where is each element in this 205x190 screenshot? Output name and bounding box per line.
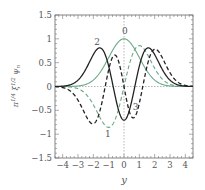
x-tick-label: 0	[121, 160, 126, 170]
curve-label-1: 1	[105, 129, 111, 139]
y-tick-label: 1	[47, 34, 52, 44]
y-tick-label: 0.5	[38, 58, 52, 68]
curve-labels: 0123	[94, 26, 138, 138]
y-tick-label: 0	[47, 82, 52, 92]
curve-label-0: 0	[122, 26, 128, 36]
y-tick-label: −1	[39, 129, 52, 139]
y-tick-label: 1.5	[38, 10, 52, 20]
x-tick-label: 2	[152, 160, 157, 170]
y-axis-label: π1/4 ξ1/2 ψn	[10, 64, 21, 108]
x-axis-label: y	[120, 174, 127, 185]
x-tick-label: 3	[167, 160, 172, 170]
x-tick-label: −3	[72, 160, 85, 170]
x-tick-label: −4	[56, 160, 69, 170]
y-label-part: n	[15, 64, 21, 68]
curve-label-2: 2	[94, 37, 100, 47]
x-tick-label: 1	[137, 160, 142, 170]
y-tick-label: −0.5	[31, 105, 52, 115]
chart-figure: 0123 −4−3−2−101234−1.5−1−0.500.511.5 y π…	[0, 0, 205, 190]
x-tick-label: 4	[183, 160, 188, 170]
x-tick-label: −2	[87, 160, 100, 170]
wavefunction-plot: 0123 −4−3−2−101234−1.5−1−0.500.511.5 y π…	[0, 0, 205, 190]
x-tick-label: −1	[102, 160, 115, 170]
curve-label-3: 3	[133, 102, 139, 112]
y-tick-label: −1.5	[31, 153, 52, 163]
y-axis-label-group: π1/4 ξ1/2 ψn	[10, 64, 21, 108]
